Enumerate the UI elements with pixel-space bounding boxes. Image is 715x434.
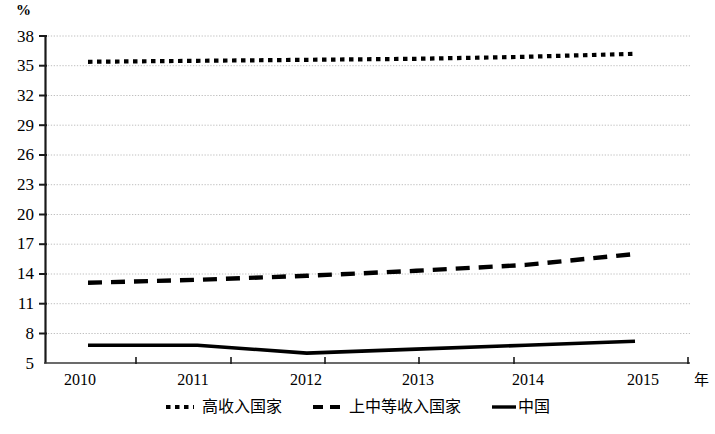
legend-item-china: 中国 bbox=[491, 398, 550, 416]
series-high-income-countries bbox=[88, 54, 635, 62]
legend-label-upper-middle-income: 上中等收入国家 bbox=[349, 398, 461, 416]
legend-item-upper-middle-income: 上中等收入国家 bbox=[312, 398, 461, 416]
line-chart: % 38 35 32 29 26 23 20 17 14 11 8 5 2010… bbox=[0, 0, 715, 434]
legend-label-china: 中国 bbox=[518, 398, 550, 416]
dotted-line-swatch-icon bbox=[165, 402, 195, 412]
solid-line-swatch-icon bbox=[491, 402, 517, 412]
series-china bbox=[88, 341, 635, 353]
legend-item-high-income: 高收入国家 bbox=[165, 398, 282, 416]
chart-legend: 高收入国家 上中等收入国家 中国 bbox=[0, 398, 715, 416]
legend-label-high-income: 高收入国家 bbox=[202, 398, 282, 416]
gridlines bbox=[45, 36, 690, 334]
series-upper-middle-income-countries bbox=[88, 254, 635, 283]
plot-area bbox=[0, 0, 715, 434]
dashed-line-swatch-icon bbox=[312, 402, 342, 412]
